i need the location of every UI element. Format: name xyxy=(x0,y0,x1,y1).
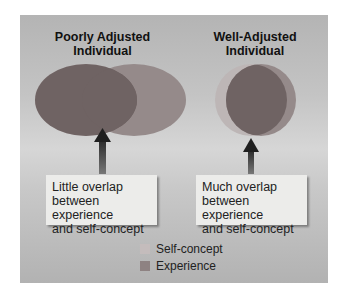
left-title-line1: Poorly Adjusted xyxy=(45,30,160,44)
right-title-line2: Individual xyxy=(200,44,310,58)
experience-swatch-icon xyxy=(140,261,150,271)
right-title: Well-Adjusted Individual xyxy=(200,30,310,58)
left-arrow-icon xyxy=(94,128,111,174)
left-caption-line1: Little overlap xyxy=(52,180,151,194)
right-caption-box: Much overlap between experience and self… xyxy=(196,175,307,225)
right-title-line1: Well-Adjusted xyxy=(200,30,310,44)
right-caption-line2: between experience xyxy=(202,194,301,222)
left-title: Poorly Adjusted Individual xyxy=(45,30,160,58)
right-arrow-icon xyxy=(243,138,259,174)
left-caption-line3: and self-concept xyxy=(52,222,151,236)
right-caption-line1: Much overlap xyxy=(202,180,301,194)
self-concept-swatch-icon xyxy=(140,244,150,254)
right-overlap xyxy=(215,64,287,136)
legend-experience: Experience xyxy=(140,259,216,273)
legend-label: Experience xyxy=(156,259,216,273)
legend-self-concept: Self-concept xyxy=(140,242,223,256)
right-caption-line3: and self-concept xyxy=(202,222,301,236)
left-overlap xyxy=(35,64,137,136)
left-caption-line2: between experience xyxy=(52,194,151,222)
legend-label: Self-concept xyxy=(156,242,223,256)
left-title-line2: Individual xyxy=(45,44,160,58)
left-caption-box: Little overlap between experience and se… xyxy=(46,175,157,225)
